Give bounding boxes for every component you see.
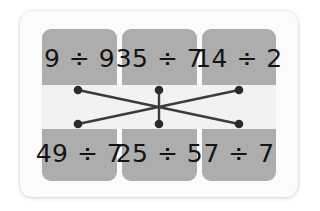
connector-band	[42, 85, 276, 129]
node-top-right[interactable]	[235, 86, 244, 95]
tile-expression: 9 ÷ 9	[44, 46, 115, 71]
worksheet-card: 9 ÷ 9 35 ÷ 7 14 ÷ 2 49 ÷ 7 25 ÷ 5 7 ÷ 7	[20, 11, 298, 197]
node-top-middle[interactable]	[155, 86, 164, 95]
tile-expression: 7 ÷ 7	[203, 141, 274, 166]
node-bottom-left[interactable]	[74, 120, 83, 129]
tile-expression: 25 ÷ 5	[116, 141, 204, 166]
connector-lines-svg	[42, 85, 276, 129]
tile-expression: 35 ÷ 7	[116, 46, 204, 71]
node-bottom-right[interactable]	[235, 120, 244, 129]
connection-lines	[78, 90, 239, 124]
node-bottom-middle[interactable]	[155, 120, 164, 129]
tile-expression: 49 ÷ 7	[36, 141, 124, 166]
tile-expression: 14 ÷ 2	[195, 46, 283, 71]
node-top-left[interactable]	[74, 86, 83, 95]
